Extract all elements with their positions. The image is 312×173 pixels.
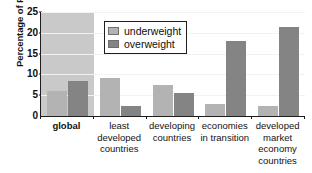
x-axis-category-labels: globalleastdevelopedcountriesdevelopingc… [36,120,308,172]
x-axis-tick-mark [40,116,41,119]
x-axis-label-2: developingcountries [142,120,203,143]
bar-overweight-2 [174,93,194,116]
x-axis-label-line: global [36,120,97,132]
bar-underweight-4 [258,106,278,116]
x-axis-label-line: countries [89,143,150,155]
x-axis-label-line: market [247,132,308,144]
legend-item-underweight: underweight [108,24,181,37]
bar-overweight-1 [121,106,141,116]
x-axis-label-line: economies [194,120,255,132]
gridline [41,74,305,75]
y-axis-tick-label: 25 [18,7,38,17]
x-axis-label-3: economiesin transition [194,120,255,143]
legend-item-overweight: overweight [108,37,181,50]
legend-label-overweight: overweight [124,38,175,50]
x-axis-tick-mark [146,116,147,119]
x-axis-label-1: leastdevelopedcountries [89,120,150,155]
bar-overweight-3 [226,41,246,116]
x-axis-label-line: developed [247,120,308,132]
y-axis-tick-label: 5 [18,90,38,100]
legend-label-underweight: underweight [124,25,181,37]
x-axis-label-4: developedmarketeconomycountries [247,120,308,166]
y-axis-tick-label: 0 [18,111,38,121]
x-axis-label-line: economy [247,143,308,155]
x-axis-tick-mark [93,116,94,119]
y-axis-tick-labels: 0510152025 [18,12,38,116]
x-axis-label-line: least [89,120,150,132]
legend-swatch-overweight-icon [108,40,119,48]
bar-underweight-1 [100,78,120,116]
chart-legend: underweight overweight [104,21,187,54]
y-axis-tick-label: 10 [18,69,38,79]
gridline [41,12,305,13]
x-axis-label-line: countries [247,155,308,167]
bar-underweight-0 [47,91,67,116]
x-axis-tick-mark [198,116,199,119]
x-axis-label-0: global [36,120,97,132]
bar-underweight-3 [205,104,225,116]
x-axis-label-line: countries [142,132,203,144]
legend-swatch-underweight-icon [108,27,119,35]
grouped-bar-chart: Percentage of Population 0510152025 glob… [0,0,312,173]
x-axis-tick-mark [251,116,252,119]
x-axis-label-line: in transition [194,132,255,144]
bar-underweight-2 [153,85,173,116]
y-axis-tick-label: 15 [18,49,38,59]
x-axis-label-line: developed [89,132,150,144]
x-axis-tick-mark [304,116,305,119]
bar-overweight-0 [68,81,88,116]
x-axis-label-line: developing [142,120,203,132]
bar-overweight-4 [279,27,299,116]
y-axis-tick-label: 20 [18,28,38,38]
